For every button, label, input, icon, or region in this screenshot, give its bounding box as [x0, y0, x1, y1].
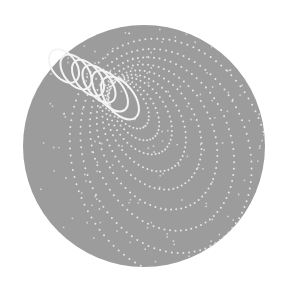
- scatter-dot: [97, 161, 99, 163]
- scatter-dot: [86, 222, 88, 224]
- scatter-dot: [190, 119, 192, 121]
- scatter-dot: [99, 222, 101, 224]
- scatter-dot: [179, 86, 181, 88]
- scatter-dot: [67, 62, 69, 64]
- scatter-dot: [238, 194, 240, 196]
- scatter-dot: [101, 143, 103, 145]
- scatter-dot: [86, 73, 88, 75]
- scatter-dot: [144, 248, 146, 250]
- scatter-dot: [259, 145, 261, 147]
- scatter-dot: [161, 41, 163, 43]
- scatter-dot: [53, 170, 55, 172]
- scatter-dot: [211, 219, 213, 221]
- scatter-dot: [159, 186, 161, 188]
- scatter-dot: [153, 151, 155, 153]
- scatter-dot: [85, 180, 87, 182]
- scatter-dot: [188, 255, 190, 257]
- scatter-dot: [147, 147, 149, 149]
- scatter-dot: [175, 36, 177, 38]
- scatter-dot: [131, 67, 133, 69]
- scatter-dot: [176, 144, 178, 146]
- scatter-dot: [99, 208, 101, 210]
- illustration: Helical spring spiraling into dotted loo…: [0, 0, 282, 295]
- scatter-dot: [63, 227, 65, 229]
- gray-sphere: [23, 25, 265, 267]
- scatter-dot: [147, 227, 149, 229]
- scatter-dot: [187, 155, 189, 157]
- scatter-dot: [227, 216, 229, 218]
- scatter-dot: [72, 217, 74, 219]
- scatter-dot: [205, 202, 207, 204]
- scatter-dot: [150, 52, 152, 54]
- scatter-dot: [186, 106, 188, 108]
- scatter-dot: [130, 199, 132, 201]
- scatter-dot: [194, 41, 196, 43]
- scatter-dot: [40, 188, 42, 190]
- scatter-dot: [241, 85, 243, 87]
- scatter-dot: [121, 145, 123, 147]
- scatter-dot: [173, 244, 175, 246]
- scatter-dot: [146, 72, 148, 74]
- scatter-dot: [178, 164, 180, 166]
- scatter-dot: [232, 219, 234, 221]
- scatter-dot: [222, 142, 224, 144]
- scatter-dot: [181, 199, 183, 201]
- scatter-dot: [121, 91, 123, 93]
- scatter-dot: [232, 99, 234, 101]
- scatter-dot: [91, 204, 93, 206]
- scatter-dot: [150, 67, 152, 69]
- scatter-dot: [239, 94, 241, 96]
- scatter-dot: [84, 174, 86, 176]
- scatter-dot: [49, 103, 51, 105]
- scatter-dot: [43, 142, 45, 144]
- scatter-dot: [173, 240, 175, 242]
- scatter-dot: [96, 170, 98, 172]
- scatter-dot: [94, 51, 96, 53]
- scatter-dot: [94, 62, 96, 64]
- scatter-dot: [112, 48, 114, 50]
- scatter-dot: [63, 113, 65, 115]
- scatter-dot: [148, 82, 150, 84]
- scatter-dot: [52, 105, 54, 107]
- scatter-dot: [129, 241, 131, 243]
- scatter-dot: [257, 160, 259, 162]
- scatter-dot: [167, 91, 169, 93]
- scatter-dot: [258, 113, 260, 115]
- scatter-dot: [110, 69, 112, 71]
- scatter-dot: [138, 61, 140, 63]
- scatter-dot: [185, 33, 187, 35]
- scatter-dot: [211, 181, 213, 183]
- scatter-dot: [125, 32, 127, 34]
- scatter-dot: [162, 173, 164, 175]
- scatter-dot: [202, 168, 204, 170]
- scatter-dot: [81, 192, 83, 194]
- scatter-dot: [155, 261, 157, 263]
- scatter-dot: [162, 140, 164, 142]
- scatter-dot: [94, 196, 96, 198]
- scatter-dot: [105, 57, 107, 59]
- scatter-dot: [166, 236, 168, 238]
- scatter-dot: [128, 32, 130, 34]
- scatter-dot: [227, 110, 229, 112]
- scatter-dot: [137, 202, 139, 204]
- scatter-dot: [211, 100, 213, 102]
- scatter-dot: [137, 75, 139, 77]
- scatter-dot: [210, 240, 212, 242]
- scatter-dot: [212, 86, 214, 88]
- scatter-dot: [167, 130, 169, 132]
- scatter-dot: [151, 222, 153, 224]
- scatter-dot: [64, 116, 66, 118]
- scatter-dot: [116, 230, 118, 232]
- scatter-dot: [67, 57, 69, 59]
- scatter-dot: [161, 131, 163, 133]
- scatter-dot: [85, 80, 87, 82]
- scatter-dot: [93, 237, 95, 239]
- scatter-dot: [230, 69, 232, 71]
- scatter-dot: [227, 92, 229, 94]
- scatter-dot: [206, 72, 208, 74]
- scatter-dot: [84, 45, 86, 47]
- scatter-dot: [146, 56, 148, 58]
- scatter-dot: [96, 198, 98, 200]
- scatter-dot: [259, 147, 261, 149]
- scatter-dot: [65, 177, 67, 179]
